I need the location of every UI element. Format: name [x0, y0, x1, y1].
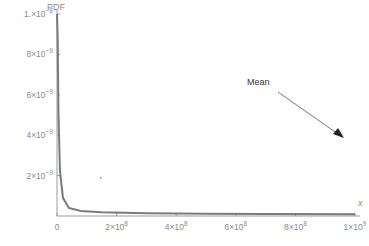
mean-arrowhead-icon — [333, 128, 344, 138]
mean-annotation-label: Mean — [247, 77, 270, 87]
pdf-curve — [57, 14, 355, 214]
y-tick-label: 8×10−9 — [26, 47, 53, 59]
x-tick-label: 8×108 — [284, 220, 307, 232]
y-tick-label: 4×10−9 — [26, 128, 53, 140]
y-tick-label: 6×10−9 — [26, 88, 53, 100]
x-tick-label: 4×108 — [165, 220, 188, 232]
y-tick-label: 1.×10−8 — [24, 7, 53, 19]
y-tick-label: 2×10−9 — [26, 169, 53, 181]
x-tick-label: 0 — [55, 222, 60, 232]
x-axis-label: x — [357, 198, 363, 208]
stray-mark — [100, 177, 102, 179]
pdf-chart: PDF x 2×10−94×10−96×10−98×10−91.×10−8 02… — [0, 0, 369, 246]
x-tick-label: 6×108 — [224, 220, 247, 232]
mean-arrow — [278, 92, 338, 134]
x-tick-label: 1×109 — [344, 220, 367, 232]
y-ticks: 2×10−94×10−96×10−98×10−91.×10−8 — [24, 7, 60, 181]
x-tick-label: 2×108 — [105, 220, 128, 232]
